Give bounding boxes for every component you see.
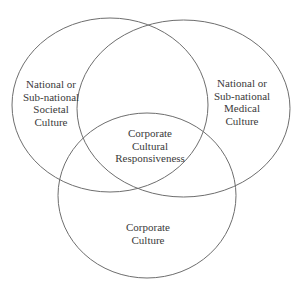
label-line: Sub-national [214,90,270,103]
label-line: Medical [214,102,270,115]
label-line: Corporate [126,221,170,234]
label-line: Societal [23,103,79,116]
label-line: Corporate [115,127,185,140]
medical-culture-label: National or Sub-national Medical Culture [214,77,270,127]
label-line: Cultural [115,140,185,153]
corporate-culture-label: Corporate Culture [126,221,170,246]
label-line: Responsiveness [115,152,185,165]
label-line: Culture [23,116,79,129]
label-line: Sub-national [23,91,79,104]
societal-culture-label: National or Sub-national Societal Cultur… [23,78,79,128]
label-line: Culture [126,234,170,247]
corporate-cultural-responsiveness-label: Corporate Cultural Responsiveness [115,127,185,165]
label-line: Culture [214,115,270,128]
label-line: National or [23,78,79,91]
label-line: National or [214,77,270,90]
